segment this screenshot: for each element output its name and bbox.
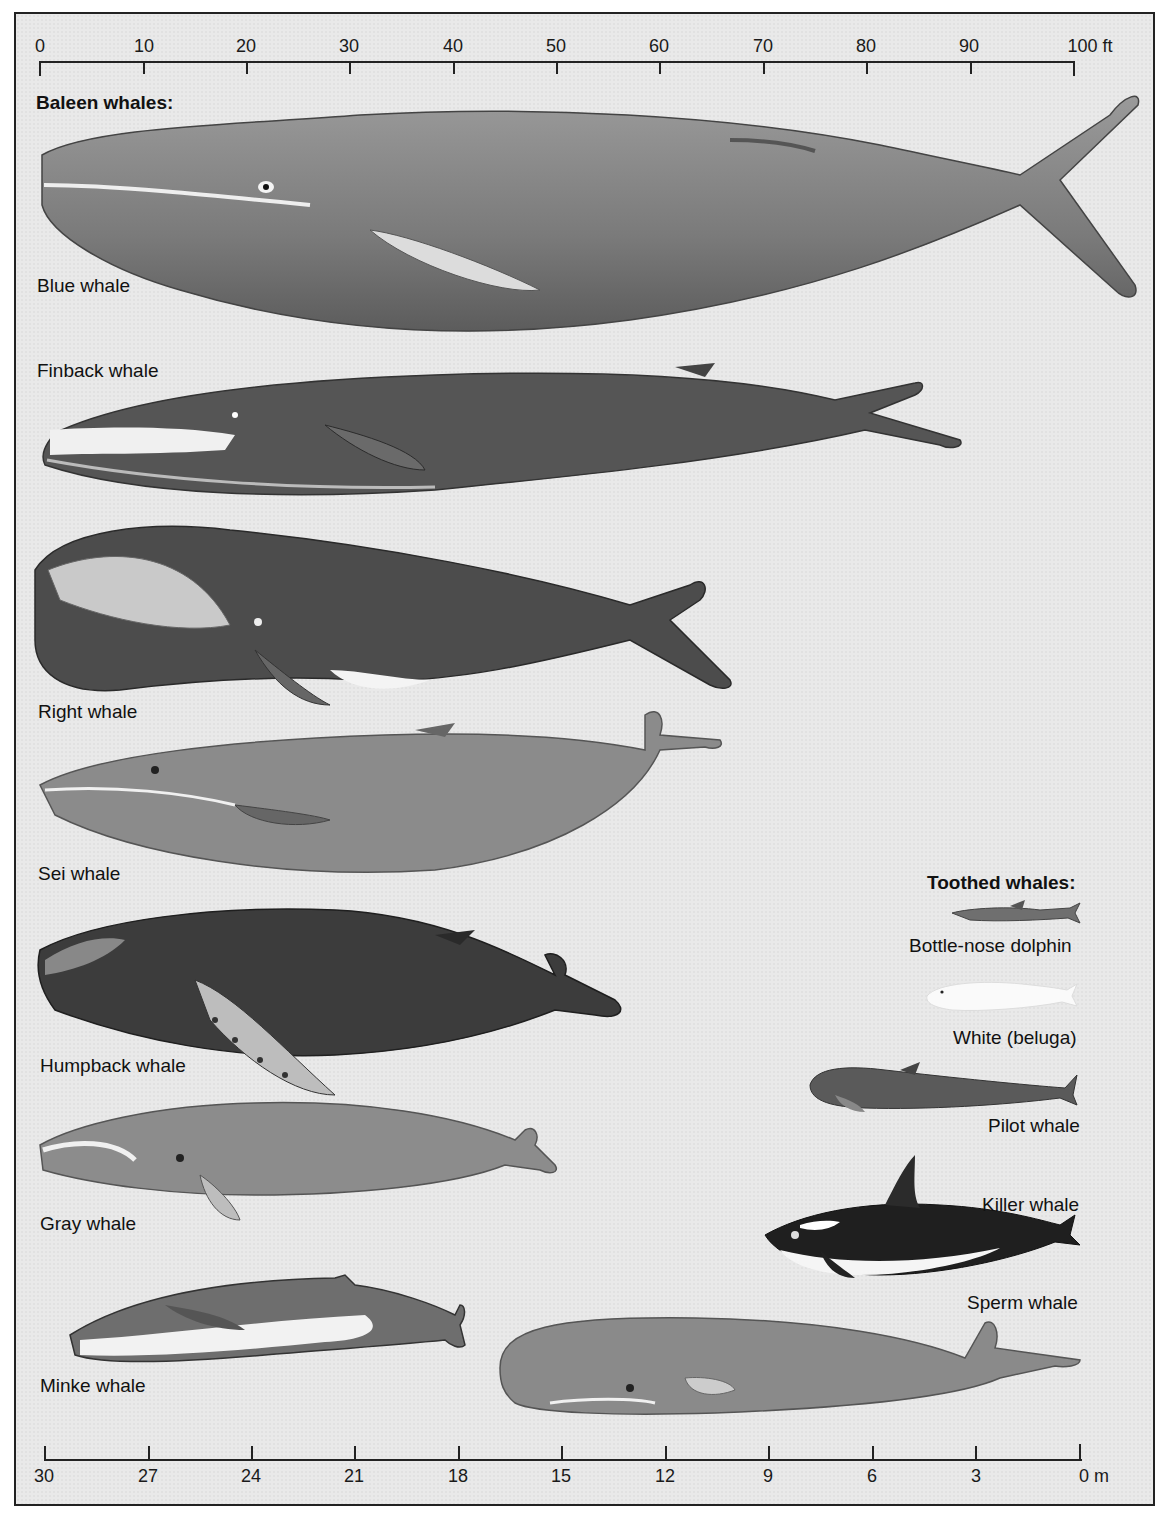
bottom-tick-label: 30 [34, 1466, 54, 1487]
bottle-nose-dolphin-illustration [950, 898, 1085, 930]
top-tick [39, 61, 41, 76]
gray-whale-label: Gray whale [40, 1213, 136, 1235]
top-tick [970, 61, 972, 74]
blue-whale-label: Blue whale [37, 275, 130, 297]
top-tick [246, 61, 248, 74]
top-tick-label: 20 [236, 36, 256, 57]
bottom-tick-label: 9 [763, 1466, 773, 1487]
bottom-tick-label: 6 [867, 1466, 877, 1487]
gray-whale-illustration [35, 1095, 565, 1225]
top-tick [349, 61, 351, 74]
sei-whale-label: Sei whale [38, 863, 120, 885]
top-tick [453, 61, 455, 74]
sperm-whale-illustration [495, 1308, 1085, 1428]
killer-whale-illustration [760, 1150, 1090, 1285]
bottom-tick [458, 1446, 460, 1460]
bottom-tick [354, 1446, 356, 1460]
top-tick [556, 61, 558, 74]
bottom-tick-label: 21 [344, 1466, 364, 1487]
minke-whale-illustration [65, 1270, 465, 1365]
blue-whale-illustration [30, 85, 1150, 345]
top-tick-label: 30 [339, 36, 359, 57]
pilot-whale-illustration [805, 1060, 1080, 1120]
top-tick-label: 60 [649, 36, 669, 57]
bottom-tick [975, 1446, 977, 1460]
top-tick-label: 0 [35, 36, 45, 57]
bottom-tick-label: 3 [971, 1466, 981, 1487]
toothed-heading: Toothed whales: [927, 872, 1075, 894]
top-tick-label: 70 [753, 36, 773, 57]
bottom-tick [44, 1446, 46, 1460]
bottom-tick [665, 1446, 667, 1460]
bottom-tick [1079, 1444, 1081, 1460]
bottom-scale-line [44, 1459, 1082, 1461]
bottom-tick-label: 27 [138, 1466, 158, 1487]
bottom-tick-label: 18 [448, 1466, 468, 1487]
top-tick [866, 61, 868, 74]
top-tick-label: 80 [856, 36, 876, 57]
sei-whale-illustration [35, 705, 735, 880]
top-tick [143, 61, 145, 74]
killer-whale-label: Killer whale [982, 1194, 1079, 1216]
sperm-whale-label: Sperm whale [967, 1292, 1078, 1314]
bottom-tick-label: 15 [551, 1466, 571, 1487]
bottom-tick [251, 1446, 253, 1460]
bottom-tick [872, 1446, 874, 1460]
finback-whale-illustration [35, 355, 975, 505]
beluga-label: White (beluga) [953, 1027, 1077, 1049]
right-whale-illustration [30, 520, 740, 710]
minke-whale-label: Minke whale [40, 1375, 146, 1397]
top-tick-label: 90 [959, 36, 979, 57]
top-tick [1073, 61, 1075, 76]
bottom-tick [561, 1446, 563, 1460]
bottle-nose-dolphin-label: Bottle-nose dolphin [909, 935, 1072, 957]
top-tick-label: 10 [134, 36, 154, 57]
bottom-tick [148, 1446, 150, 1460]
beluga-illustration [922, 978, 1080, 1014]
humpback-whale-label: Humpback whale [40, 1055, 186, 1077]
top-tick-label: 50 [546, 36, 566, 57]
top-tick-label: 40 [443, 36, 463, 57]
finback-whale-label: Finback whale [37, 360, 158, 382]
bottom-tick-label: 12 [655, 1466, 675, 1487]
top-tick [763, 61, 765, 74]
top-tick [659, 61, 661, 74]
top-tick-label: 100 ft [1067, 36, 1112, 57]
bottom-tick [768, 1446, 770, 1460]
bottom-tick-label: 0 m [1079, 1466, 1109, 1487]
bottom-tick-label: 24 [241, 1466, 261, 1487]
pilot-whale-label: Pilot whale [988, 1115, 1080, 1137]
